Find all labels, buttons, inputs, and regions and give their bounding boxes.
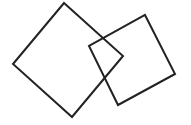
left-square xyxy=(13,3,123,117)
overlapping-squares-diagram xyxy=(0,0,191,125)
right-square xyxy=(89,15,175,105)
diagram-canvas xyxy=(0,0,191,125)
